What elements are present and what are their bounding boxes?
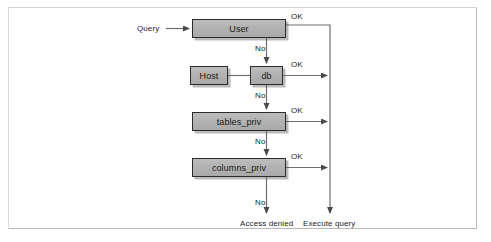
node-tables-priv-label: tables_priv <box>217 117 262 127</box>
node-user-label: User <box>229 24 248 34</box>
edge-label-no-db: No <box>255 91 265 100</box>
edge-label-ok-user: OK <box>291 12 303 21</box>
node-columns-priv-label: columns_priv <box>212 163 266 173</box>
edge-label-ok-db: OK <box>291 60 303 69</box>
terminal-execute-query-label: Execute query <box>303 219 355 228</box>
node-user: User <box>192 19 286 38</box>
node-host-label: Host <box>200 71 219 81</box>
edge-label-ok-columns-priv: OK <box>291 152 303 161</box>
edge-user-ok <box>286 25 330 213</box>
terminal-query-label: Query <box>137 24 159 33</box>
terminal-access-denied-label: Access denied <box>240 219 293 228</box>
node-db-label: db <box>261 71 271 81</box>
edge-label-no-user: No <box>255 44 265 53</box>
edge-label-ok-tables-priv: OK <box>291 106 303 115</box>
node-db: db <box>250 66 283 85</box>
diagram-page: User Host db tables_priv columns_priv Qu… <box>0 0 491 242</box>
edge-label-no-columns-priv: No <box>255 198 265 207</box>
node-host: Host <box>190 66 228 85</box>
node-columns-priv: columns_priv <box>192 158 286 177</box>
edge-label-no-tables-priv: No <box>255 137 265 146</box>
node-tables-priv: tables_priv <box>192 112 286 131</box>
